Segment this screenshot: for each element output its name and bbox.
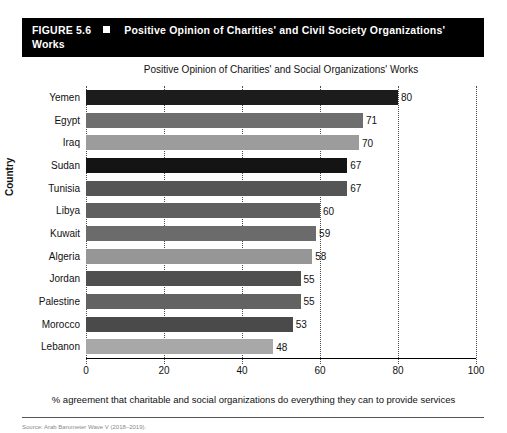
category-label: Libya (56, 205, 80, 216)
bar-row: 60 (86, 203, 476, 218)
category-label: Iraq (63, 137, 80, 148)
figure-header-line: FIGURE 5.6Positive Opinion of Charities'… (32, 23, 474, 51)
category-label: Lebanon (41, 341, 80, 352)
bottom-divider (22, 417, 484, 418)
x-axis-tick (398, 359, 399, 364)
x-axis-tick (164, 359, 165, 364)
category-label: Morocco (42, 319, 80, 330)
bar-value-label: 80 (398, 92, 412, 103)
bar (86, 271, 301, 286)
x-axis-label: % agreement that charitable and social o… (0, 394, 507, 405)
x-tick-label: 40 (227, 365, 257, 376)
bar (86, 181, 347, 196)
bar (86, 249, 312, 264)
bar-value-label: 55 (301, 273, 315, 284)
x-tick-label: 60 (305, 365, 335, 376)
bar (86, 90, 398, 105)
category-label: Yemen (49, 92, 80, 103)
bar-row: 58 (86, 249, 476, 264)
source-note: Source: Arab Barometer Wave V (2018–2019… (22, 424, 484, 432)
plot-area: 807170676760595855555348 (86, 86, 476, 358)
chart-title: Positive Opinion of Charities' and Socia… (86, 64, 476, 75)
bar-row: 67 (86, 158, 476, 173)
bar-value-label: 71 (363, 115, 377, 126)
x-axis-tick (476, 359, 477, 364)
category-label: Egypt (54, 115, 80, 126)
bar-value-label: 58 (312, 251, 326, 262)
x-tick-label: 20 (149, 365, 179, 376)
bar (86, 226, 316, 241)
x-axis-tick (86, 359, 87, 364)
bar-row: 70 (86, 135, 476, 150)
bar (86, 113, 363, 128)
bar-value-label: 59 (316, 228, 330, 239)
bar-value-label: 67 (347, 183, 361, 194)
bar (86, 203, 320, 218)
x-axis-tick (320, 359, 321, 364)
category-label: Algeria (49, 251, 80, 262)
bar-row: 71 (86, 113, 476, 128)
figure-header: FIGURE 5.6Positive Opinion of Charities'… (22, 18, 484, 57)
x-axis-tick (242, 359, 243, 364)
bar (86, 158, 347, 173)
bar (86, 294, 301, 309)
bar-row: 80 (86, 90, 476, 105)
bar (86, 135, 359, 150)
bar-value-label: 48 (273, 341, 287, 352)
bar (86, 317, 293, 332)
category-label: Jordan (49, 273, 80, 284)
bar-row: 53 (86, 317, 476, 332)
category-label: Kuwait (50, 228, 80, 239)
bar-value-label: 67 (347, 160, 361, 171)
bar-row: 67 (86, 181, 476, 196)
bar (86, 339, 273, 354)
category-label: Tunisia (48, 183, 80, 194)
bar-row: 48 (86, 339, 476, 354)
y-axis-label: Country (4, 158, 15, 196)
x-axis-line (86, 358, 476, 359)
bar-value-label: 70 (359, 137, 373, 148)
bar-value-label: 60 (320, 205, 334, 216)
x-tick-label: 0 (71, 365, 101, 376)
x-tick-label: 100 (461, 365, 491, 376)
x-tick-label: 80 (383, 365, 413, 376)
square-marker-icon (103, 26, 110, 33)
bar-value-label: 55 (301, 296, 315, 307)
category-label: Palestine (39, 296, 80, 307)
bar-value-label: 53 (293, 319, 307, 330)
category-label: Sudan (51, 160, 80, 171)
figure-number: FIGURE 5.6 (32, 24, 91, 36)
bar-row: 55 (86, 294, 476, 309)
gridline (476, 86, 477, 358)
figure-title: Positive Opinion of Charities' and Civil… (32, 24, 445, 50)
bar-row: 59 (86, 226, 476, 241)
bar-row: 55 (86, 271, 476, 286)
